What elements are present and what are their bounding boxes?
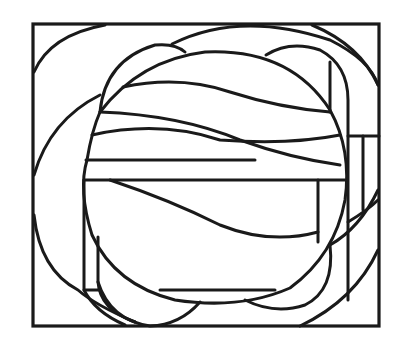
upper-left-dome [100,45,185,112]
band-6 [110,180,318,237]
drawing-svg [0,0,406,364]
left-arc-upper [34,95,100,175]
right-bottom-arc [300,250,378,326]
top-arc [172,26,378,85]
band-1 [123,82,330,112]
corner-arc-top-left [34,25,105,72]
main-circle [83,52,346,303]
line-art-drawing [0,0,406,364]
